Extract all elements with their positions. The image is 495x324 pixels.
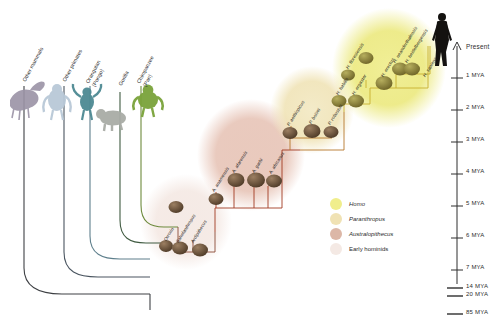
skull-h-sapiens-cranium [359, 52, 374, 64]
axis-tick-14mya: 14 MYA [466, 283, 488, 289]
axis-tick-3mya: 3 MYA [466, 136, 485, 142]
skull-p-robustus [324, 126, 339, 138]
skull-ardipithecus [192, 244, 208, 257]
figure-root: Other mammals Other primates Orangutan (… [0, 0, 495, 324]
silhouette-other-mammals [10, 81, 45, 120]
legend-label-paranthropus: Paranthropus [349, 216, 385, 222]
axis-present-label: Present [466, 43, 489, 50]
legend-label-australopithecus: Australopithecus [349, 231, 393, 237]
legend-swatch-early-hominids [330, 243, 342, 255]
cluster-legend: Homo Paranthropus Australopithecus Early… [330, 196, 393, 256]
skull-a-anamensis [209, 193, 224, 205]
legend-swatch-australopithecus [330, 228, 342, 240]
axis-tick-5mya: 5 MYA [466, 200, 485, 206]
skull-p-aethiopicus [283, 127, 298, 139]
skull-a-africanus [266, 175, 282, 188]
axis-tick-20mya: 20 MYA [466, 291, 488, 297]
legend-item-homo: Homo [330, 196, 393, 211]
legend-swatch-paranthropus [330, 213, 342, 225]
skull-a-afarensis [228, 173, 245, 187]
outgroup-silhouettes [10, 81, 163, 131]
axis-tick-1mya: 1 MYA [466, 72, 485, 78]
axis-tick-6mya: 6 MYA [466, 232, 485, 238]
legend-label-early-hominids: Early hominids [349, 246, 388, 252]
axis-tick-2mya: 2 MYA [466, 104, 485, 110]
axis-tick-7mya: 7 MYA [466, 264, 485, 270]
skull-orrorin [159, 240, 173, 252]
silhouette-gorilla [96, 109, 126, 131]
skull-sahelanthropus [172, 242, 188, 255]
silhouette-other-primates [43, 84, 71, 120]
legend-item-australopithecus: Australopithecus [330, 226, 393, 241]
skull-h-ergaster [348, 95, 364, 108]
skull-a-garhi [247, 173, 265, 188]
skull-h-heidelbergensis [404, 63, 420, 76]
legend-item-paranthropus: Paranthropus [330, 211, 393, 226]
axis-tick-85mya: 85 MYA [466, 309, 488, 315]
legend-swatch-homo [330, 198, 342, 210]
skull-early-extra [169, 201, 184, 213]
time-axis-graphics [447, 42, 463, 314]
skull-p-boisei [304, 124, 321, 138]
axis-tick-4mya: 4 MYA [466, 168, 485, 174]
silhouette-chimpanzee [133, 85, 163, 117]
skull-h-erectus [376, 76, 393, 90]
legend-label-homo: Homo [349, 201, 365, 207]
legend-item-early-hominids: Early hominids [330, 241, 393, 256]
phylogeny-canvas [0, 0, 495, 324]
